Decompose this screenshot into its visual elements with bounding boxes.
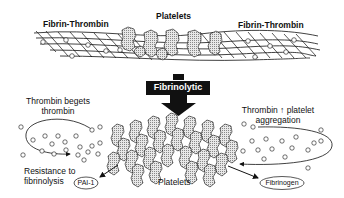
fibrinolytic-arrow [146, 74, 210, 116]
top-left-fibrin-thrombin-label: Fibrin-Thrombin [43, 20, 109, 30]
right-loop-line2: aggregation [236, 116, 320, 126]
fibrinolysis-diagram: Fibrin-Thrombin Platelets Fibrin-Thrombi… [0, 0, 344, 198]
platelet-aggregate [107, 113, 238, 187]
fibrinolytic-label: Fibrinolytic [146, 83, 210, 93]
thrombin-circles-left [19, 125, 102, 162]
pai-1-label: PAI-1 [74, 178, 98, 188]
top-platelets-label: Platelets [156, 12, 191, 22]
left-loop-line2: thrombin [18, 107, 98, 117]
resistance-label: Resistance to fibrinolysis [24, 167, 76, 186]
fibrinogen-label: Fibrinogen [260, 178, 304, 188]
right-loop-label: Thrombin ↑ platelet aggregation [236, 106, 320, 125]
thrombin-circles-right [241, 122, 323, 170]
left-loop-label: Thrombin begets thrombin [18, 97, 98, 116]
fibrinogen-arrow [228, 166, 258, 178]
resistance-line2: fibrinolysis [24, 177, 76, 187]
bottom-platelets-label: Platelets [158, 178, 191, 188]
top-right-fibrin-thrombin-label: Fibrin-Thrombin [238, 21, 304, 31]
